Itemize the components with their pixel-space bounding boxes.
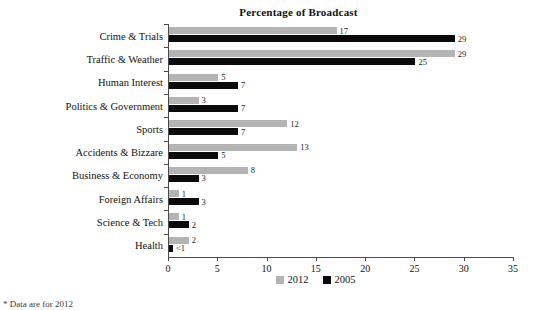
bar-value-label: 13 xyxy=(300,142,309,152)
bar-value-label: 5 xyxy=(221,72,225,82)
bar-2012: 13 xyxy=(169,144,297,151)
bar-group: Science & Tech12 xyxy=(168,210,513,233)
chart-legend: 20122005 xyxy=(0,274,537,285)
x-axis-tick xyxy=(168,257,169,261)
x-axis-tick-label: 35 xyxy=(508,263,518,274)
bar-value-label: 29 xyxy=(458,34,467,44)
x-axis-tick xyxy=(316,257,317,261)
category-label: Politics & Government xyxy=(66,100,163,111)
y-axis-tick xyxy=(164,164,168,165)
bar-value-label: 7 xyxy=(241,127,245,137)
bar-value-label: 7 xyxy=(241,103,245,113)
bar-value-label: 2 xyxy=(192,235,196,245)
bar-2012: 17 xyxy=(169,27,337,34)
legend-swatch-icon xyxy=(323,276,331,284)
x-axis-tick-label: 25 xyxy=(409,263,419,274)
x-axis-tick-label: 0 xyxy=(166,263,171,274)
bar-2005: <1 xyxy=(169,245,173,252)
y-axis-tick xyxy=(164,47,168,48)
bar-2012: 29 xyxy=(169,50,455,57)
category-label: Science & Tech xyxy=(97,217,163,228)
bar-value-label: 5 xyxy=(221,150,225,160)
bar-value-label: 3 xyxy=(202,197,206,207)
category-label: Health xyxy=(135,240,163,251)
bar-2005: 25 xyxy=(169,58,415,65)
x-axis-tick-label: 15 xyxy=(311,263,321,274)
bar-group: Politics & Government37 xyxy=(168,94,513,117)
x-axis-tick xyxy=(464,257,465,261)
y-axis-tick xyxy=(164,24,168,25)
bar-value-label: 3 xyxy=(202,95,206,105)
bar-2012: 1 xyxy=(169,213,179,220)
bar-2005: 2 xyxy=(169,221,189,228)
category-label: Human Interest xyxy=(98,77,163,88)
bar-value-label: 3 xyxy=(202,173,206,183)
y-axis-tick xyxy=(164,117,168,118)
bar-2005: 3 xyxy=(169,175,199,182)
y-axis-tick xyxy=(164,210,168,211)
bar-value-label: 8 xyxy=(251,165,255,175)
bar-2005: 5 xyxy=(169,152,218,159)
footnote-marker: * xyxy=(3,299,8,309)
footnote: * Data are for 2012 xyxy=(3,299,73,309)
x-axis-tick xyxy=(414,257,415,261)
y-axis-tick xyxy=(164,141,168,142)
bar-2012: 8 xyxy=(169,167,248,174)
legend-label: 2012 xyxy=(288,274,309,285)
bar-value-label: 7 xyxy=(241,80,245,90)
y-axis-tick xyxy=(164,187,168,188)
bar-value-label: 1 xyxy=(182,212,186,222)
bar-value-label: 1 xyxy=(182,189,186,199)
bar-2012: 3 xyxy=(169,97,199,104)
y-axis-tick xyxy=(164,234,168,235)
footnote-text: Data are for 2012 xyxy=(10,299,73,309)
x-axis-tick xyxy=(365,257,366,261)
legend-swatch-icon xyxy=(276,276,284,284)
bar-group: Foreign Affairs13 xyxy=(168,187,513,210)
category-label: Sports xyxy=(136,123,163,134)
legend-item[interactable]: 2012 xyxy=(276,274,309,285)
bar-2012: 5 xyxy=(169,74,218,81)
bar-2012: 12 xyxy=(169,120,287,127)
bar-value-label: <1 xyxy=(176,243,185,253)
category-label: Foreign Affairs xyxy=(99,193,163,204)
chart-page: Percentage of Broadcast Crime & Trials17… xyxy=(0,0,537,310)
bar-group: Health2<1 xyxy=(168,234,513,257)
legend-item[interactable]: 2005 xyxy=(323,274,356,285)
bar-2005: 7 xyxy=(169,82,238,89)
bar-value-label: 2 xyxy=(192,220,196,230)
bar-group: Human Interest57 xyxy=(168,71,513,94)
y-axis-tick xyxy=(164,94,168,95)
x-axis-tick xyxy=(513,257,514,261)
bar-group: Traffic & Weather2925 xyxy=(168,47,513,70)
bar-value-label: 12 xyxy=(290,119,299,129)
x-axis-tick-label: 10 xyxy=(262,263,272,274)
x-axis-tick-label: 20 xyxy=(360,263,370,274)
bar-2005: 29 xyxy=(169,35,455,42)
bar-value-label: 29 xyxy=(458,49,467,59)
bar-group: Crime & Trials1729 xyxy=(168,24,513,47)
x-axis-tick xyxy=(217,257,218,261)
y-axis-tick xyxy=(164,71,168,72)
chart-title: Percentage of Broadcast xyxy=(0,6,537,18)
bar-group: Sports127 xyxy=(168,117,513,140)
bar-2012: 1 xyxy=(169,190,179,197)
category-label: Business & Economy xyxy=(72,170,163,181)
bar-value-label: 17 xyxy=(340,26,349,36)
plot-area: Crime & Trials1729Traffic & Weather2925H… xyxy=(168,24,513,257)
x-axis-tick xyxy=(267,257,268,261)
category-label: Crime & Trials xyxy=(99,30,163,41)
x-axis-tick-label: 30 xyxy=(459,263,469,274)
bar-group: Business & Economy83 xyxy=(168,164,513,187)
bar-2005: 7 xyxy=(169,128,238,135)
bar-group: Accidents & Bizzare135 xyxy=(168,141,513,164)
bar-2005: 3 xyxy=(169,198,199,205)
x-axis-line xyxy=(168,257,513,258)
bar-2005: 7 xyxy=(169,105,238,112)
bar-value-label: 25 xyxy=(418,57,427,67)
legend-label: 2005 xyxy=(335,274,356,285)
x-axis-tick-label: 5 xyxy=(215,263,220,274)
category-label: Traffic & Weather xyxy=(86,53,163,64)
category-label: Accidents & Bizzare xyxy=(76,147,163,158)
